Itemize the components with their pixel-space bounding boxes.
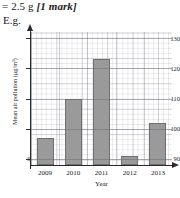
bar-2012: [121, 156, 138, 165]
y-axis-tick-label: 110: [156, 95, 180, 102]
y-axis-tick: [26, 68, 31, 69]
gridline-horizontal: [31, 38, 172, 39]
x-axis-title: Year: [31, 180, 172, 188]
answer-result-line: = 2.5 g [1 mark]: [2, 0, 77, 12]
x-axis-tick-label: 2013: [141, 169, 175, 177]
plot-area: [31, 32, 172, 165]
gridline-vertical: [116, 32, 117, 165]
y-axis-title: Mean air pollution (µg/m³): [11, 38, 18, 146]
gridline-horizontal: [31, 129, 172, 130]
bar-2009: [37, 138, 54, 165]
gridline-vertical: [87, 32, 88, 165]
mark-allocation: [1 mark]: [37, 0, 77, 12]
y-axis-arrow-icon: [27, 24, 33, 31]
y-axis-tick-label: 100: [156, 125, 180, 132]
y-axis-tick-label: 130: [156, 35, 180, 42]
bar-2011: [93, 59, 110, 165]
gridline-vertical: [59, 32, 60, 165]
gridline-horizontal: [31, 68, 172, 69]
bar-chart: 13012011010090 20092010201120122013 ≈ Ye…: [0, 28, 180, 198]
y-axis-tick-label: 120: [156, 65, 180, 72]
answer-result-value: = 2.5 g: [2, 0, 37, 12]
y-axis-tick: [26, 38, 31, 39]
gridline-vertical: [144, 32, 145, 165]
axis-break-icon: ≈: [26, 157, 32, 162]
example-label: E.g.: [3, 14, 21, 26]
worked-answer-figure: = 2.5 g [1 mark] E.g. 13012011010090 200…: [0, 0, 180, 198]
gridline-horizontal: [31, 159, 172, 160]
gridline-vertical: [31, 32, 32, 165]
y-axis-tick-label: 90: [156, 155, 180, 162]
bar-2010: [65, 99, 82, 166]
x-axis-line: [30, 165, 173, 166]
y-axis-tick: [26, 129, 31, 130]
y-axis-tick: [26, 99, 31, 100]
gridline-horizontal: [31, 99, 172, 100]
